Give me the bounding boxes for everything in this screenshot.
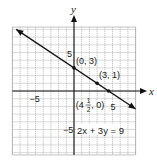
y-tick-label-5: 5 (67, 49, 72, 59)
line-arrow-left-icon (16, 29, 23, 35)
equation-label: 2x + 3y = 9 (77, 125, 124, 136)
y-tick-label-neg5: −5 (63, 125, 73, 135)
y-axis-label: y (70, 3, 76, 15)
point-3-1 (95, 82, 99, 86)
point-label-3-1: (3, 1) (99, 70, 120, 80)
point-label-0-3: (0, 3) (76, 56, 97, 66)
point-label-prefix: (4 (76, 100, 84, 110)
fraction-denominator: 2 (87, 106, 91, 113)
x-axis-arrow-icon (140, 88, 147, 94)
fraction-numerator: 1 (87, 97, 91, 104)
line-arrow-right-icon (128, 103, 135, 109)
point-4half-0 (107, 89, 111, 93)
x-tick-label-neg5: −5 (30, 94, 40, 104)
point-label-suffix: , 0) (91, 100, 104, 110)
x-axis-label: x (148, 85, 154, 97)
coordinate-plane-chart: x y −5 5 5 −5 (0, 3) (3, 1) (4 1 2 , 0) … (0, 0, 157, 167)
x-tick-label-5: 5 (111, 102, 116, 112)
y-axis-arrow-icon (71, 15, 77, 22)
point-label-4half-0: (4 1 2 , 0) (76, 97, 105, 113)
point-0-3 (72, 66, 76, 70)
equation-label-group: 2x + 3y = 9 (76, 124, 124, 136)
